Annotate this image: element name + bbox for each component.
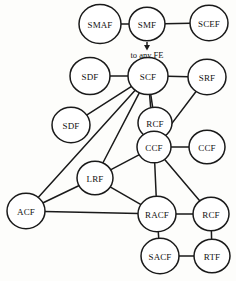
node-label-smaf: SMAF [88, 20, 113, 30]
edge-ccf_mid-rcf_right [165, 160, 200, 201]
edge-lrf-racf [110, 187, 141, 205]
node-label-scef: SCEF [198, 19, 220, 29]
edge-ccf_mid-racf [155, 163, 156, 195]
nodes-layer: SMAFSMFSCEFSDFSCFSRFSDFRCFCCFCCFLRFACFRA… [7, 4, 230, 273]
node-racf[interactable]: RACF [138, 196, 176, 231]
node-sdf_left[interactable]: SDF [52, 107, 90, 142]
node-label-rcf_mid: RCF [146, 119, 163, 129]
node-label-acf: ACF [17, 207, 35, 217]
node-rcf_right[interactable]: RCF [193, 197, 229, 230]
node-smaf[interactable]: SMAF [79, 4, 121, 43]
node-scf[interactable]: SCF [128, 57, 168, 94]
edge-ccf_mid-lrf [110, 155, 139, 170]
node-rtf[interactable]: RTF [194, 239, 230, 272]
node-sdf_top[interactable]: SDF [70, 57, 110, 94]
node-label-sdf_left: SDF [63, 121, 80, 131]
node-ccf_mid[interactable]: CCF [137, 131, 171, 163]
node-acf[interactable]: ACF [7, 193, 45, 228]
diagram-canvas: to any FE SMAFSMFSCEFSDFSCFSRFSDFRCFCCFC… [0, 0, 236, 281]
node-label-sdf_top: SDF [82, 72, 99, 82]
node-ccf_right[interactable]: CCF [189, 130, 225, 163]
node-label-ccf_mid: CCF [145, 143, 162, 153]
edge-scf-lrf [103, 93, 139, 162]
node-label-ccf_right: CCF [198, 143, 215, 153]
node-lrf[interactable]: LRF [77, 161, 113, 194]
node-label-lrf: LRF [87, 174, 104, 184]
network-diagram: to any FE SMAFSMFSCEFSDFSCFSRFSDFRCFCCFC… [0, 0, 236, 281]
node-srf[interactable]: SRF [188, 59, 226, 94]
edge-acf-racf [44, 211, 138, 213]
node-label-scf: SCF [140, 72, 156, 82]
node-label-sacf: SACF [149, 252, 172, 262]
node-label-rtf: RTF [204, 252, 220, 262]
node-smf[interactable]: SMF [129, 7, 165, 40]
node-label-racf: RACF [145, 210, 169, 220]
edge-lrf-acf [43, 186, 80, 203]
node-label-srf: SRF [199, 73, 215, 83]
node-scef[interactable]: SCEF [190, 5, 228, 40]
node-label-smf: SMF [138, 20, 156, 30]
node-label-rcf_right: RCF [202, 210, 219, 220]
node-sacf[interactable]: SACF [141, 238, 179, 273]
